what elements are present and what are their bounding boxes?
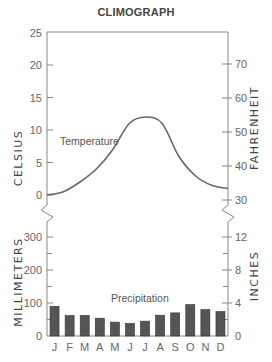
climograph-chart: 25201510507060504030300200100012840JFMAM… [0,0,272,362]
precipitation-bar [110,322,119,336]
month-label: O [186,341,195,353]
fahrenheit-axis-title: FAHRENHEIT [248,86,261,170]
axis-ticks [47,64,232,320]
temperature-line [47,117,228,195]
month-label: J [127,341,133,353]
precipitation-bar [50,306,59,336]
celsius-tick-label: 25 [30,27,42,39]
precipitation-bar [201,310,210,336]
precipitation-bar [216,312,225,336]
celsius-tick-label: 5 [36,157,42,169]
month-label: S [172,341,179,353]
precipitation-bar [65,316,74,336]
precipitation-bar [125,323,134,336]
month-label: A [96,341,104,353]
precipitation-bar [95,318,104,336]
fahrenheit-tick-label: 70 [235,58,247,70]
mm-tick-label: 100 [24,297,42,309]
right-axis-line [222,32,234,336]
fahrenheit-tick-label: 50 [235,126,247,138]
celsius-tick-label: 10 [30,124,42,136]
inch-tick-label: 12 [235,231,247,243]
inch-tick-label: 8 [235,264,241,276]
mm-tick-label: 200 [24,264,42,276]
celsius-tick-label: 20 [30,59,42,71]
month-label: M [110,341,119,353]
fahrenheit-tick-label: 40 [235,160,247,172]
precipitation-bar [186,305,195,336]
month-label: J [142,341,148,353]
celsius-tick-label: 0 [36,189,42,201]
temperature-label: Temperature [60,135,119,147]
month-label: D [216,341,224,353]
mm-tick-label: 300 [24,231,42,243]
celsius-axis-title: CELSIUS [12,130,25,187]
month-label: M [80,341,89,353]
mm-tick-label: 0 [36,330,42,342]
precipitation-bar [156,315,165,336]
precipitation-label: Precipitation [111,292,169,304]
precipitation-bar [141,321,150,336]
precipitation-bar [171,313,180,336]
millimeters-axis-title: MILLIMETERS [12,237,25,326]
axis-tick-labels: 25201510507060504030300200100012840JFMAM… [24,27,248,354]
fahrenheit-tick-label: 60 [235,92,247,104]
precipitation-bars [50,305,225,336]
month-label: J [52,341,58,353]
month-label: N [201,341,209,353]
inches-axis-title: INCHES [248,251,261,301]
inch-tick-label: 0 [235,330,241,342]
celsius-tick-label: 15 [30,92,42,104]
inch-tick-label: 4 [235,297,241,309]
left-axis-line [41,32,53,336]
precipitation-bar [80,316,89,336]
temperature-panel [41,32,234,336]
fahrenheit-tick-label: 30 [235,194,247,206]
month-label: A [156,341,164,353]
month-label: F [66,341,73,353]
